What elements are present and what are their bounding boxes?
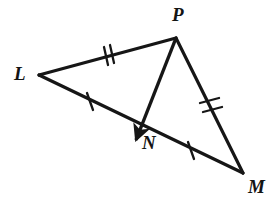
segment-LP xyxy=(39,38,176,75)
vertex-label-M: M xyxy=(248,177,265,196)
ray-PN xyxy=(136,38,176,140)
geometry-figure: L P M N xyxy=(0,0,272,215)
geometry-canvas xyxy=(0,0,272,215)
vertex-label-N: N xyxy=(142,133,156,152)
vertex-label-P: P xyxy=(172,5,184,24)
segment-PM xyxy=(176,38,243,173)
vertex-label-L: L xyxy=(14,64,26,83)
